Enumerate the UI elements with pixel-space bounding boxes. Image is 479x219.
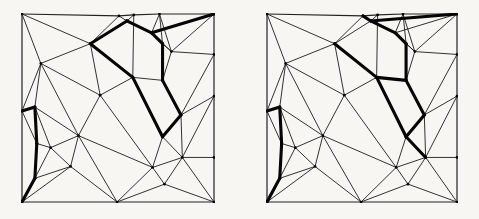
triangulation-vertex <box>280 142 283 145</box>
triangulation-edge <box>408 184 457 202</box>
triangulation-vertex <box>21 13 23 15</box>
triangulation-vertex <box>343 94 346 97</box>
triangulation-edge <box>41 63 79 135</box>
triangulation-vertex <box>394 31 397 34</box>
bold-triangulation-edge <box>152 14 214 33</box>
triangulation-edge <box>71 136 79 167</box>
triangulation-edge <box>153 137 163 168</box>
square-border-edge <box>22 14 119 16</box>
triangulation-edge <box>426 157 457 202</box>
right-triangulation-panel <box>266 13 458 203</box>
triangulation-vertex <box>375 76 378 79</box>
triangulation-edge <box>117 167 153 202</box>
triangulation-vertex <box>405 42 408 45</box>
square-border-edge <box>134 14 160 15</box>
bold-triangulation-edge <box>377 77 406 136</box>
bold-triangulation-edge <box>335 44 377 78</box>
square-border-edge <box>267 14 363 16</box>
triangulation-edge <box>282 144 296 148</box>
triangulation-edge <box>280 107 323 136</box>
triangulation-edge <box>335 21 371 44</box>
triangulation-vertex <box>34 106 37 109</box>
bold-triangulation-edge <box>406 80 424 115</box>
triangulation-vertex <box>161 79 164 82</box>
triangulation-vertex <box>213 156 215 159</box>
bold-triangulation-edge <box>267 178 280 202</box>
triangulation-edge <box>22 166 71 202</box>
bold-triangulation-edge <box>90 21 126 44</box>
triangulation-vertex <box>314 165 317 168</box>
triangulation-vertex <box>77 134 80 137</box>
triangulation-vertex <box>181 156 184 159</box>
triangulation-edge <box>323 136 361 202</box>
triangulation-edge <box>315 166 361 202</box>
triangulation-vertex <box>266 13 268 15</box>
figure-canvas <box>0 0 479 219</box>
triangulation-edge <box>396 167 408 184</box>
triangulation-vertex <box>402 13 405 15</box>
triangulation-vertex <box>150 31 153 34</box>
triangulation-edge <box>71 166 117 202</box>
bold-triangulation-edge <box>267 107 280 111</box>
bold-triangulation-edge <box>90 44 132 78</box>
bold-triangulation-edge <box>133 77 163 136</box>
triangulation-vertex <box>369 20 372 23</box>
triangulation-edge <box>41 44 91 64</box>
triangulation-edge <box>295 148 315 167</box>
triangulation-edge <box>163 137 183 158</box>
triangulation-vertex <box>423 114 426 117</box>
triangulation-edge <box>323 95 344 135</box>
square-border-edge <box>378 14 403 15</box>
triangulation-edge <box>35 107 79 136</box>
triangulation-edge <box>361 184 408 202</box>
triangulation-vertex <box>180 114 183 117</box>
bold-triangulation-edge <box>395 33 406 44</box>
triangulation-edge <box>51 136 79 148</box>
triangulation-edge <box>78 95 100 135</box>
triangulation-edge <box>286 63 345 95</box>
triangulation-edge <box>295 136 323 148</box>
triangulation-vertex <box>278 106 281 109</box>
triangulation-vertex <box>69 165 72 168</box>
bold-triangulation-edge <box>377 77 406 80</box>
triangulation-vertex <box>125 20 128 23</box>
triangulation-vertex <box>294 146 297 149</box>
triangulation-vertex <box>49 146 52 149</box>
bold-triangulation-edge <box>163 115 181 137</box>
triangulation-vertex <box>405 79 408 82</box>
bold-triangulation-edge <box>280 107 282 143</box>
triangulation-edge <box>182 157 214 202</box>
triangulation-edge <box>315 136 323 167</box>
triangulation-vertex <box>284 62 287 65</box>
triangulation-edge <box>286 44 335 64</box>
bold-triangulation-edge <box>371 21 396 33</box>
bold-triangulation-edge <box>280 144 282 179</box>
bold-triangulation-edge <box>152 33 163 44</box>
triangulation-edge <box>117 184 164 202</box>
triangulation-edge <box>22 14 90 44</box>
triangulation-vertex <box>376 14 379 17</box>
triangulation-edge <box>415 52 457 55</box>
triangulation-vertex <box>151 166 154 169</box>
left-triangulation-panel <box>21 13 215 203</box>
triangulation-edge <box>395 14 403 33</box>
bold-triangulation-edge <box>163 80 181 115</box>
triangulation-edge <box>41 63 100 95</box>
triangulation-edge <box>396 137 406 168</box>
triangulation-edge <box>424 115 425 157</box>
triangulation-edge <box>164 157 182 184</box>
triangulation-edge <box>415 14 457 52</box>
triangulation-vertex <box>405 135 408 138</box>
triangulation-edge <box>171 52 214 55</box>
triangulation-vertex <box>278 177 281 180</box>
triangulation-edge <box>164 184 214 202</box>
bold-triangulation-edge <box>406 137 426 158</box>
triangulation-edge <box>153 157 183 167</box>
triangulation-vertex <box>132 14 135 17</box>
triangulation-vertex <box>35 142 38 145</box>
triangulation-vertex <box>362 15 365 18</box>
bold-triangulation-edge <box>406 115 424 137</box>
triangulation-vertex <box>161 42 164 45</box>
bold-triangulation-edge <box>127 21 152 33</box>
triangulation-vertex <box>395 166 398 169</box>
